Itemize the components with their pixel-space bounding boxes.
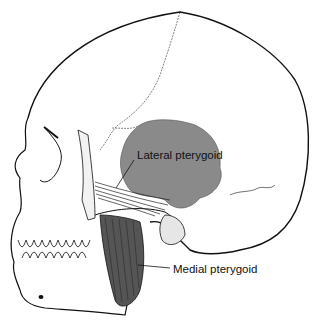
skull-illustration: Lateral pterygoid Medial pterygoid <box>0 0 315 323</box>
lateral-pterygoid-region <box>120 120 221 208</box>
medial-pterygoid-label: Medial pterygoid <box>173 264 257 276</box>
skull-drawing <box>0 0 315 323</box>
occipital-ridge <box>230 185 275 195</box>
mental-foramen <box>39 295 44 299</box>
lateral-pterygoid-label: Lateral pterygoid <box>137 150 223 162</box>
teeth <box>18 240 90 258</box>
mastoid-process <box>160 215 185 245</box>
orbit-inner <box>44 127 58 138</box>
orbit <box>40 128 61 182</box>
pterygoid-plate <box>78 130 95 220</box>
